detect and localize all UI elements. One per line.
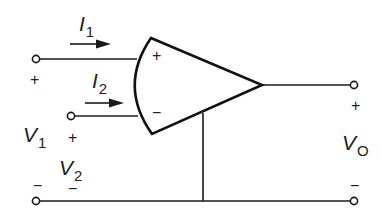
circuit-diagram [0,0,382,224]
opamp-inverting-sign: − [152,105,161,121]
v1-symbol: V [23,123,37,146]
vo-symbol: V [342,131,356,154]
voltage-label-vo: VO [342,132,368,153]
v2-symbol: V [59,156,73,179]
current-label-i2: I2 [92,70,106,91]
v1-subscript: 1 [38,134,46,151]
vo-minus-sign: − [350,178,359,194]
ground-terminal-left [32,197,39,204]
voltage-label-v1: V1 [23,124,45,145]
current-i1-symbol: I [79,12,85,35]
opamp-noninverting-sign: + [152,48,161,64]
current-i2-symbol: I [92,69,98,92]
voltage-label-v2: V2 [59,157,81,178]
input-terminal-2 [67,112,74,119]
ground-terminal-right [350,197,357,204]
current-i1-subscript: 1 [86,23,94,40]
output-terminal [350,81,357,88]
current-label-i1: I1 [79,13,93,34]
input-terminal-1 [32,55,39,62]
current-arrow-i2-icon [85,99,124,108]
v2-minus-sign: − [68,181,77,197]
current-arrow-i1-icon [70,40,111,49]
v1-minus-sign: − [33,178,42,194]
v2-plus-sign: + [68,130,77,146]
vo-plus-sign: + [351,98,360,114]
vo-subscript: O [357,142,369,159]
current-i2-subscript: 2 [99,80,107,97]
v1-plus-sign: + [30,72,39,88]
